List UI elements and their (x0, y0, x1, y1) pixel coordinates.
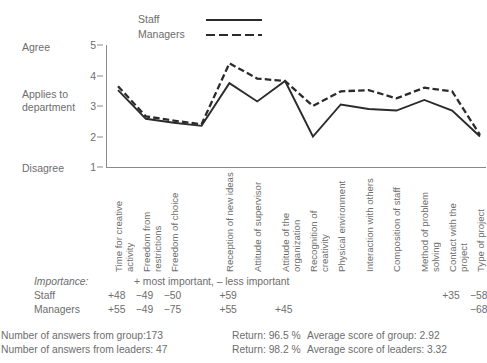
x-axis-label-1: Freedom from restrictions (142, 172, 163, 272)
x-axis-label-0: Time for creative activity (114, 172, 135, 272)
importance-value-1-13: −68 (470, 304, 487, 315)
footer-row-group: Number of answers from group:173 Return:… (0, 330, 486, 344)
x-axis-label-10: Method of problem solving (420, 172, 441, 272)
legend-label-staff: Staff (138, 12, 200, 27)
legend-swatch-dashed (206, 30, 262, 40)
importance-title: Importance: (34, 276, 88, 287)
importance-row-label-staff: Staff (34, 290, 55, 301)
importance-table: Importance: + most important, – less imp… (34, 276, 486, 318)
chart-legend: Staff Managers (138, 12, 262, 42)
footer-average-leaders: Average score of leaders: 3.32 (307, 344, 447, 355)
legend-swatch-solid (206, 15, 262, 25)
footer-stats: Number of answers from group:173 Return:… (0, 330, 486, 358)
x-axis-label-7: Physical environment (337, 172, 348, 272)
importance-value-0-1: −49 (136, 290, 153, 301)
plot-area: 12345 (88, 40, 486, 172)
importance-row-staff: Staff +48−49−50+59+35−58 (34, 290, 486, 304)
y-axis-label-agree: Agree (22, 41, 50, 54)
x-axis-label-5: Attitude of the organization (281, 172, 302, 272)
footer-average-group: Average score of group: 2.92 (307, 330, 440, 341)
importance-header-row: Importance: + most important, – less imp… (34, 276, 486, 290)
legend-item-staff: Staff (138, 12, 262, 27)
importance-value-1-2: −75 (164, 304, 181, 315)
series-lines (88, 40, 486, 172)
x-axis-label-2: Freedom of choice (170, 172, 181, 272)
x-axis-label-8: Interaction with others (365, 172, 376, 272)
footer-return-leaders: Return: 98.2 % (232, 344, 301, 355)
series-line-staff (118, 81, 480, 137)
importance-value-0-4: +59 (219, 290, 236, 301)
y-axis-label-applies: Applies to department (22, 88, 75, 113)
y-axis-label-disagree: Disagree (22, 162, 64, 175)
footer-row-leaders: Number of answers from leaders: 47 Retur… (0, 344, 486, 358)
importance-value-1-0: +55 (108, 304, 125, 315)
x-axis-label-6: Recognition of creativity (309, 172, 330, 272)
importance-value-1-4: +55 (219, 304, 236, 315)
importance-value-0-12: +35 (442, 290, 459, 301)
footer-answers-group: Number of answers from group:173 (1, 330, 163, 341)
series-line-managers (118, 63, 480, 135)
importance-value-1-1: −49 (136, 304, 153, 315)
importance-key: + most important, – less important (134, 276, 289, 287)
x-axis-label-4: Attitude of supervisor (253, 172, 264, 272)
x-axis-label-9: Composition of staff (392, 172, 403, 272)
x-axis-label-3: Reception of new ideas (225, 172, 236, 272)
importance-row-label-managers: Managers (34, 304, 80, 315)
footer-answers-leaders: Number of answers from leaders: 47 (1, 344, 168, 355)
x-axis-category-labels: Time for creative activityFreedom from r… (88, 172, 486, 272)
x-axis-label-12: Type of project (476, 172, 487, 272)
x-axis-label-11: Contact with the project (448, 172, 469, 272)
importance-row-managers: Managers +55−49−75+55+45−68 (34, 304, 486, 318)
importance-value-1-6: +45 (275, 304, 292, 315)
footer-return-group: Return: 96.5 % (232, 330, 301, 341)
importance-value-0-0: +48 (108, 290, 125, 301)
importance-value-0-2: −50 (164, 290, 181, 301)
importance-value-0-13: −58 (470, 290, 487, 301)
